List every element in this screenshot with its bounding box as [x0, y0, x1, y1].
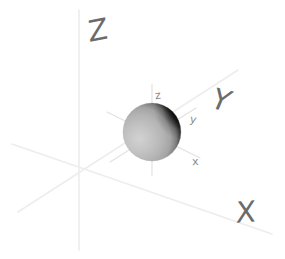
local-axis-label-x: x	[192, 156, 199, 167]
world-axis-label-x: X	[236, 197, 256, 227]
local-axis-label-z: z	[154, 90, 161, 102]
sphere-terminator-shadow	[146, 94, 194, 146]
world-axis-label-z: Z	[87, 14, 109, 47]
figure-canvas: Z Y X z y x	[0, 0, 285, 259]
